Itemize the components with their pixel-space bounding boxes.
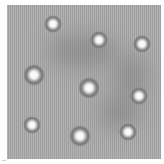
- bright-spot: [44, 15, 62, 33]
- image-frame: [7, 5, 161, 159]
- bright-spot: [78, 77, 100, 99]
- bright-spot: [69, 125, 91, 147]
- bright-spot: [133, 35, 151, 53]
- bright-spot: [90, 31, 108, 49]
- bright-spot: [119, 123, 137, 141]
- corner-mark: [2, 160, 6, 161]
- bright-spot: [23, 64, 45, 86]
- bright-spot: [130, 87, 148, 105]
- bright-spot: [23, 116, 41, 134]
